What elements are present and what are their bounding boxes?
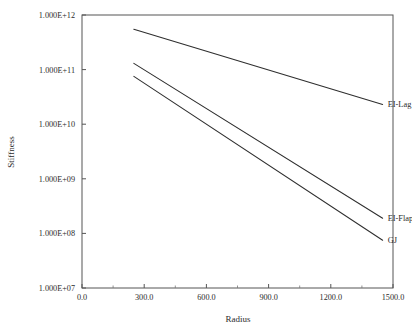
x-tick-label-4: 1200.0: [320, 293, 343, 302]
series-line-ei-flap: [134, 63, 383, 218]
y-axis-tick-labels: 1.000E+071.000E+081.000E+091.000E+101.00…: [39, 11, 75, 293]
x-axis-tick-labels: 0.0300.0600.0900.01200.01500.0: [77, 293, 404, 302]
series-line-gj: [134, 76, 383, 240]
series-label-ei-lag: EI-Lag: [388, 100, 412, 109]
y-tick-label-1: 1.000E+08: [39, 229, 75, 238]
x-tick-label-2: 600.0: [197, 293, 215, 302]
x-tick-label-0: 0.0: [77, 293, 87, 302]
series-line-ei-lag: [134, 29, 383, 104]
y-tick-label-2: 1.000E+09: [39, 175, 75, 184]
y-tick-label-4: 1.000E+11: [39, 66, 75, 75]
x-tick-label-3: 900.0: [259, 293, 277, 302]
plot-frame: [82, 15, 393, 288]
series-label-gj: GJ: [388, 236, 398, 245]
y-axis-ticks: [82, 15, 86, 288]
y-tick-label-0: 1.000E+07: [39, 284, 75, 293]
series-labels-group: EI-LagEI-FlapGJ: [388, 100, 412, 245]
y-axis-title: Stiffness: [6, 136, 16, 168]
series-lines-group: [134, 29, 383, 240]
x-axis-title: Radius: [225, 314, 250, 324]
y-tick-label-3: 1.000E+10: [39, 120, 75, 129]
x-tick-label-1: 300.0: [135, 293, 153, 302]
y-tick-label-5: 1.000E+12: [39, 11, 75, 20]
stiffness-vs-radius-chart: 0.0300.0600.0900.01200.01500.0 1.000E+07…: [0, 0, 412, 329]
series-label-ei-flap: EI-Flap: [388, 214, 412, 223]
chart-figure: 0.0300.0600.0900.01200.01500.0 1.000E+07…: [0, 0, 412, 329]
x-tick-label-5: 1500.0: [382, 293, 405, 302]
